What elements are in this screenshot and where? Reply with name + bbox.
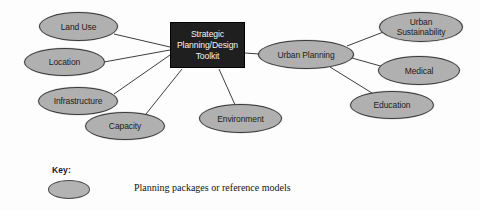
- node-location-label: Location: [46, 57, 83, 67]
- edge-location: [104, 50, 170, 62]
- edge-urban-planning: [245, 53, 259, 54]
- node-capacity-label: Capacity: [106, 121, 144, 131]
- legend-ellipse-swatch: [48, 180, 90, 199]
- center-node-line-3: Toolkit: [177, 51, 238, 62]
- edge-environment: [219, 69, 236, 107]
- node-urban-planning[interactable]: Urban Planning: [258, 40, 354, 69]
- center-node-line-2: Planning/Design: [177, 40, 238, 51]
- legend-title: Key:: [52, 165, 71, 175]
- node-education[interactable]: Education: [350, 91, 434, 119]
- node-urban-planning-label: Urban Planning: [274, 50, 337, 60]
- node-infrastructure[interactable]: Infrastructure: [38, 87, 118, 115]
- edge-capacity: [146, 69, 182, 114]
- center-node-line-1: Strategic: [177, 29, 238, 40]
- node-medical[interactable]: Medical: [378, 56, 460, 85]
- node-environment-label: Environment: [214, 114, 267, 124]
- node-environment[interactable]: Environment: [199, 104, 282, 133]
- edge-education: [330, 67, 372, 93]
- center-node-strategic-planning-design-toolkit[interactable]: Strategic Planning/Design Toolkit: [170, 22, 245, 68]
- edge-infrastructure: [114, 55, 170, 94]
- node-medical-label: Medical: [402, 66, 437, 76]
- node-land-use-label: Land Use: [58, 22, 100, 32]
- node-urban-sustainability[interactable]: Urban Sustainability: [379, 12, 463, 42]
- node-land-use[interactable]: Land Use: [39, 12, 118, 41]
- edge-urban-sustainability: [347, 31, 386, 46]
- legend-description: Planning packages or reference models: [134, 182, 291, 193]
- diagram-canvas: Strategic Planning/Design Toolkit Land U…: [0, 0, 480, 211]
- node-urban-sustainability-label: Urban Sustainability: [394, 17, 449, 37]
- node-capacity[interactable]: Capacity: [85, 112, 165, 140]
- node-location[interactable]: Location: [24, 48, 105, 76]
- edge-land-use: [114, 34, 170, 47]
- node-education-label: Education: [371, 100, 414, 110]
- node-infrastructure-label: Infrastructure: [51, 96, 106, 106]
